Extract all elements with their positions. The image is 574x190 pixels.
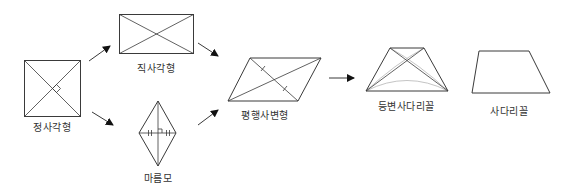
rhombus-shape xyxy=(139,101,176,166)
quadrilateral-diagram: 정사각형 직사각형 마름모 평행사변형 등변사다리꼴 사다리꼴 xyxy=(0,0,574,190)
isosceles-trapezoid-shape xyxy=(366,48,448,91)
parallelogram-label: 평행사변형 xyxy=(241,107,289,122)
isosceles-trapezoid-label: 등변사다리꼴 xyxy=(378,98,435,113)
parallelogram-shape xyxy=(228,58,321,101)
square-label: 정사각형 xyxy=(33,119,71,134)
right-angle-mark-icon xyxy=(158,129,162,133)
right-angle-mark-icon xyxy=(53,85,61,93)
arrow-rhombus-to-parallelogram-icon xyxy=(198,110,218,125)
trapezoid-label: 사다리꼴 xyxy=(490,103,528,118)
rectangle-label: 직사각형 xyxy=(137,60,175,75)
rhombus-label: 마름모 xyxy=(144,170,173,185)
diagram-canvas xyxy=(0,0,574,190)
trapezoid-shape xyxy=(472,51,550,93)
arrow-square-to-rhombus-icon xyxy=(92,112,113,125)
arrow-square-to-rectangle-icon xyxy=(89,46,110,61)
square-shape xyxy=(25,61,81,117)
rectangle-shape xyxy=(120,15,194,54)
arrow-rectangle-to-parallelogram-icon xyxy=(198,43,218,56)
